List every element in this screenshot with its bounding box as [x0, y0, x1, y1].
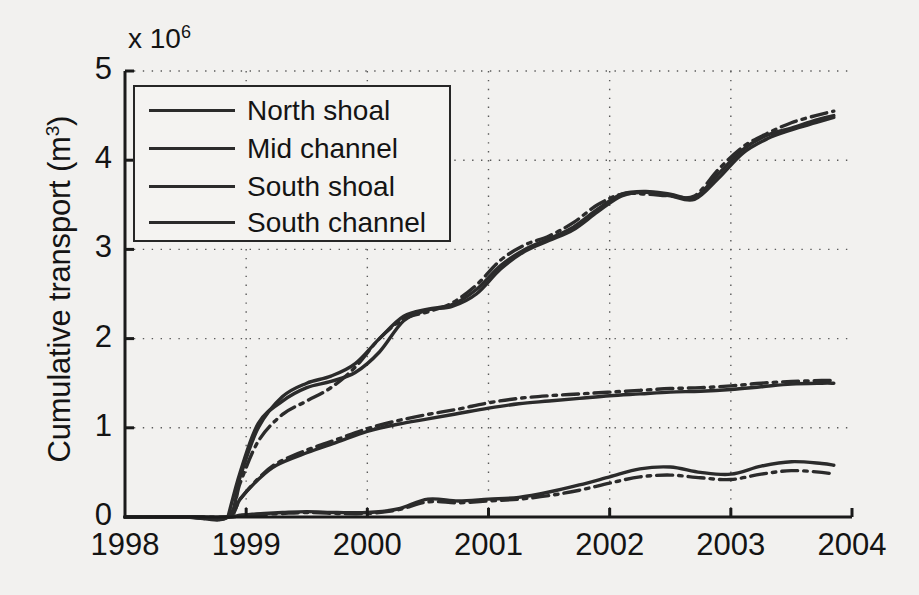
legend-label: South channel: [247, 209, 426, 237]
legend-item-2[interactable]: South shoal: [135, 167, 449, 206]
y-tick-label: 4: [78, 140, 112, 176]
legend-line-icon: [149, 109, 235, 112]
y-tick-label: 5: [78, 51, 112, 87]
legend-label: North shoal: [247, 97, 390, 125]
legend-item-3[interactable]: South channel: [135, 203, 449, 242]
legend-label: South shoal: [247, 173, 395, 201]
legend-item-0[interactable]: North shoal: [135, 91, 449, 130]
legend-line-icon: [149, 185, 235, 188]
y-tick-label: 1: [78, 408, 112, 444]
legend-line-icon: [149, 147, 235, 150]
x-tick-label: 2001: [429, 527, 549, 563]
y-tick-label: 3: [78, 229, 112, 265]
x-tick-label: 1998: [65, 527, 185, 563]
x-tick-label: 1999: [186, 527, 306, 563]
x-tick-label: 2002: [550, 527, 670, 563]
legend-line-icon: [149, 221, 235, 224]
x-tick-label: 2000: [307, 527, 427, 563]
figure-container: x 106 Cumulative transport (m3) 012345 1…: [0, 0, 919, 595]
y-tick-label: 2: [78, 319, 112, 355]
legend[interactable]: North shoal Mid channel South shoal Sout…: [133, 85, 451, 242]
legend-label: Mid channel: [247, 135, 398, 163]
legend-item-1[interactable]: Mid channel: [135, 129, 449, 168]
x-tick-label: 2003: [671, 527, 791, 563]
x-tick-label: 2004: [792, 527, 912, 563]
